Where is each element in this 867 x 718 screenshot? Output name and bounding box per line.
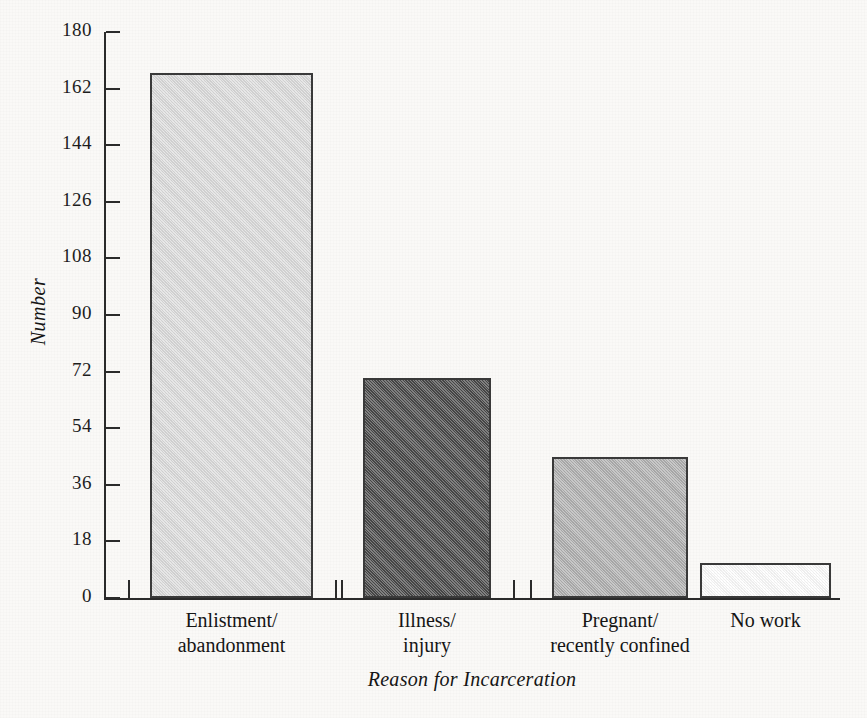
bar xyxy=(150,73,313,598)
y-axis-tick xyxy=(106,144,120,146)
y-axis-tick xyxy=(106,427,120,429)
category-label-line: recently confined xyxy=(507,633,733,658)
y-axis-tick xyxy=(106,484,120,486)
y-axis-tick xyxy=(106,31,120,33)
plot-area: 01836547290108126144162180 Enlistment/ab… xyxy=(0,0,867,718)
y-axis-tick-label: 36 xyxy=(20,472,92,494)
x-axis-tick xyxy=(513,580,515,598)
x-axis-tick xyxy=(128,580,130,598)
y-axis-tick xyxy=(106,88,120,90)
y-axis-tick xyxy=(106,597,120,599)
bar xyxy=(363,378,491,598)
bar-halftone-texture xyxy=(152,75,311,596)
y-axis-tick xyxy=(106,371,120,373)
y-axis-title: Number xyxy=(27,252,50,372)
category-label-line: Illness/ xyxy=(318,608,536,633)
x-axis-tick xyxy=(530,580,532,598)
x-axis-tick xyxy=(335,580,337,598)
bar-halftone-texture xyxy=(702,565,829,596)
y-axis-tick-label: 162 xyxy=(20,76,92,98)
category-label-line: injury xyxy=(318,633,536,658)
bar xyxy=(700,563,831,598)
y-axis-tick-label: 144 xyxy=(20,132,92,154)
x-axis-category-label: Illness/injury xyxy=(318,608,536,658)
y-axis-tick-label: 180 xyxy=(20,19,92,41)
bar xyxy=(552,457,688,599)
y-axis-line xyxy=(104,32,106,600)
x-axis-title: Reason for Incarceration xyxy=(104,668,840,691)
y-axis-tick-label: 126 xyxy=(20,189,92,211)
bar-halftone-texture xyxy=(365,380,489,596)
y-axis-tick-label: 0 xyxy=(20,585,92,607)
x-axis-tick xyxy=(341,580,343,598)
y-axis-tick-label: 18 xyxy=(20,528,92,550)
bar-chart-figure: 01836547290108126144162180 Enlistment/ab… xyxy=(0,0,867,718)
y-axis-tick xyxy=(106,314,120,316)
y-axis-tick xyxy=(106,540,120,542)
y-axis-tick-label: 54 xyxy=(20,415,92,437)
category-label-line: No work xyxy=(655,608,867,633)
bar-halftone-texture xyxy=(554,459,686,597)
x-axis-line xyxy=(104,598,840,600)
y-axis-tick xyxy=(106,201,120,203)
x-axis-category-label: No work xyxy=(655,608,867,633)
y-axis-tick xyxy=(106,257,120,259)
